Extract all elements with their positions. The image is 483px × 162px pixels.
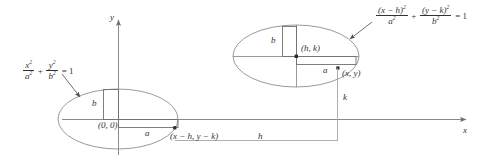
right-eq-plus-operator: +: [409, 11, 419, 21]
right-ellipse-group: [233, 25, 359, 87]
right-eq-equals-one: = 1: [452, 11, 468, 21]
left-eq-den2-exp: 2: [53, 70, 56, 76]
left-eq-den1-exp: 2: [30, 70, 33, 76]
left-eq-num2-exp: 2: [53, 59, 56, 65]
right-eq-num1-exp: 2: [403, 4, 406, 10]
right-eq-num2-exp: 2: [447, 4, 450, 10]
right-equation-leader-line: [350, 22, 372, 39]
left-eq-plus-operator: +: [35, 66, 45, 76]
right-eq-den2-exp: 2: [436, 15, 439, 21]
point-xy-label: (x, y): [342, 69, 360, 78]
left-eq-num1-exp: 2: [29, 59, 32, 65]
origin-label: (0, 0): [98, 121, 118, 130]
right-ellipse-center-marker: [295, 55, 298, 58]
left-semi-major-label-a: a: [145, 129, 150, 138]
translation-offset-path: [175, 68, 338, 141]
right-eq-numerator-1: (x − h): [378, 5, 403, 15]
right-semi-minor-label-b: b: [271, 36, 276, 45]
x-axis-label: x: [463, 126, 467, 135]
left-ellipse-point-marker: [173, 126, 176, 129]
right-semi-major-label-a: a: [323, 66, 328, 75]
left-semi-minor-label-b: b: [92, 99, 97, 108]
axes-group: [62, 20, 466, 155]
right-ellipse-equation: (x − h)2 a2 + (y − k)2 b2 = 1: [375, 5, 468, 26]
left-eq-equals-one: = 1: [59, 66, 75, 76]
right-eq-numerator-2: (y − k): [422, 5, 447, 15]
vertical-offset-label-k: k: [343, 93, 347, 102]
center-hk-label: (h, k): [301, 44, 320, 53]
y-axis-label: y: [110, 13, 114, 22]
left-ellipse-equation: x2 a2 + y2 b2 = 1: [22, 60, 75, 81]
horizontal-offset-label-h: h: [258, 132, 263, 141]
right-eq-den1-exp: 2: [393, 15, 396, 21]
translated-point-label: (x − h, y − k): [170, 132, 218, 141]
